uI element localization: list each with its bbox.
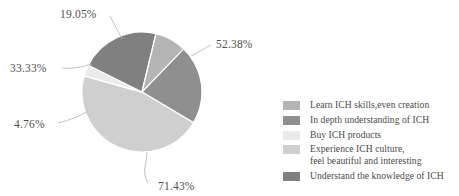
legend-item[interactable]: Buy ICH products [283,129,459,140]
pie-slice-value-label: 19.05% [60,8,97,20]
legend-item[interactable]: Understand the knowledge of ICH [283,170,459,181]
pie-leader-line [58,111,88,123]
legend-color-swatch [283,116,300,125]
pie-slice-value-label: 4.76% [14,118,45,130]
pie-slice-value-label: 52.38% [216,38,253,50]
legend-item-label: Learn ICH skills,even creation [310,99,429,110]
pie-leader-line [145,152,148,183]
legend-item[interactable]: Experience ICH culture, feel beautiful a… [283,143,459,166]
legend-color-swatch [283,101,300,110]
legend-item[interactable]: In depth understanding of ICH [283,114,459,125]
legend-color-swatch [283,172,300,181]
pie-leader-line [191,45,211,56]
legend-item[interactable]: Learn ICH skills,even creation [283,99,459,110]
pie-slice-value-label: 71.43% [158,180,195,192]
pie-slice-value-label: 33.33% [10,62,47,74]
pie-chart-figure: 52.38%71.43%4.76%33.33%19.05% Learn ICH … [0,0,459,196]
legend-item-label: In depth understanding of ICH [310,114,429,125]
chart-legend: Learn ICH skills,even creationIn depth u… [283,99,459,184]
pie-slices [82,32,202,152]
legend-item-label: Understand the knowledge of ICH [310,170,444,181]
legend-item-label: Buy ICH products [310,129,381,140]
legend-item-label: Experience ICH culture, feel beautiful a… [310,143,422,166]
legend-color-swatch [283,131,300,140]
pie-leader-line [110,16,122,39]
legend-color-swatch [283,145,300,154]
